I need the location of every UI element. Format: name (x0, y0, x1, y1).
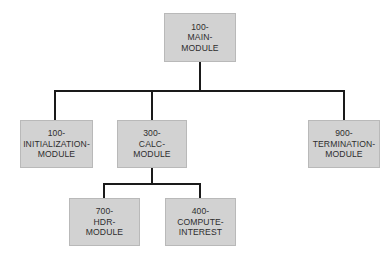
connector-level2-bus (103, 183, 201, 185)
node-label-line: 400- (192, 206, 210, 217)
connector-to-init (54, 90, 56, 120)
node-label-line: 900- (335, 128, 353, 139)
node-700-hdr-module: 700- HDR- MODULE (69, 198, 140, 246)
node-label-line: HDR- (94, 217, 116, 228)
node-label-line: COMPUTE- (177, 217, 224, 228)
node-label-line: INITIALIZATION- (23, 139, 90, 150)
node-100-main-module: 100- MAIN- MODULE (164, 13, 236, 62)
node-label-line: MODULE (181, 43, 218, 54)
node-label-line: TERMINATION- (313, 139, 376, 150)
node-900-termination-module: 900- TERMINATION- MODULE (308, 120, 380, 168)
node-400-compute-interest: 400- COMPUTE- INTEREST (165, 198, 236, 246)
node-label-line: 100- (191, 22, 209, 33)
connector-level1-bus (54, 90, 345, 92)
connector-to-term (343, 90, 345, 120)
connector-main-down (199, 62, 201, 92)
connector-to-hdr (103, 183, 105, 198)
node-300-calc-module: 300- CALC- MODULE (117, 120, 187, 168)
node-label-line: 100- (48, 128, 66, 139)
connector-to-compute (199, 183, 201, 198)
connector-to-calc (151, 90, 153, 120)
node-label-line: 300- (143, 128, 161, 139)
hierarchy-diagram: 100- MAIN- MODULE 100- INITIALIZATION- M… (0, 0, 392, 258)
node-label-line: MODULE (325, 149, 362, 160)
node-label-line: MODULE (38, 149, 75, 160)
node-label-line: 700- (96, 206, 114, 217)
node-label-line: INTEREST (179, 227, 222, 238)
node-100-initialization-module: 100- INITIALIZATION- MODULE (20, 120, 93, 168)
node-label-line: MODULE (133, 149, 170, 160)
node-label-line: MODULE (86, 227, 123, 238)
node-label-line: MAIN- (188, 32, 213, 43)
node-label-line: CALC- (139, 139, 165, 150)
